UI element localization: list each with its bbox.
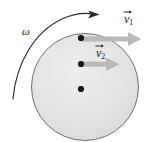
point-center (78, 86, 84, 92)
velocity-vector-2-subscript: 2 (101, 52, 105, 61)
velocity-vector-1-symbol: v1 (124, 13, 133, 27)
angular-velocity-label: ω (22, 26, 30, 37)
rotating-disk (32, 34, 139, 141)
physics-diagram-figure: ω v1 v2 (0, 0, 146, 142)
point-outer (78, 35, 84, 41)
velocity-vector-1-subscript: 1 (129, 18, 133, 27)
point-middle (78, 61, 84, 67)
velocity-vector-1-label: v1 (124, 10, 133, 27)
angular-velocity-arrowhead (88, 10, 100, 18)
velocity-vector-2-label: v2 (96, 44, 105, 61)
velocity-vector-2-symbol: v2 (96, 47, 105, 61)
